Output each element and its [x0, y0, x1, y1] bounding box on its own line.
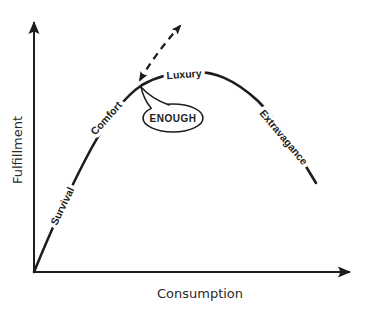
- x-axis-label: Consumption: [157, 286, 243, 301]
- enough-label: ENOUGH: [150, 113, 197, 124]
- stage-label-comfort: Comfort: [88, 98, 125, 137]
- stage-label-survival: Survival: [48, 185, 77, 227]
- stage-label-luxury: Luxury: [166, 67, 202, 81]
- fulfillment-curve: [34, 72, 316, 272]
- y-axis-label: Fulfillment: [10, 116, 25, 184]
- fulfillment-curve-figure: ENOUGH Survival Comfort Luxury Extravaga…: [0, 0, 371, 313]
- stage-label-extravagance: Extravagance: [257, 107, 310, 167]
- fulfillment-curve-canvas: ENOUGH Survival Comfort Luxury Extravaga…: [0, 0, 371, 313]
